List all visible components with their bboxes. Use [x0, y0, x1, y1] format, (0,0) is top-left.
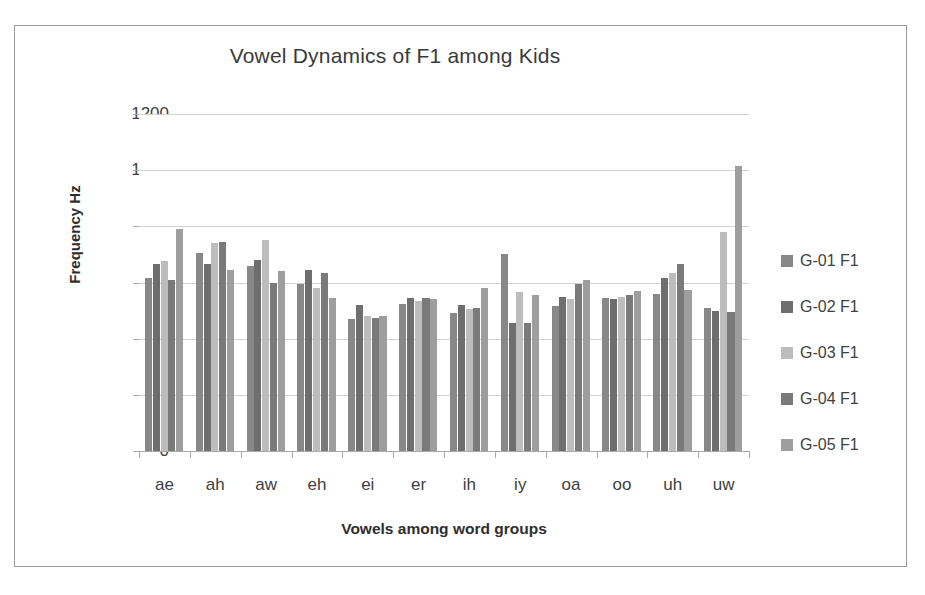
legend-label: G-03 F1 [800, 344, 859, 362]
x-axis-tick-mark [546, 451, 547, 458]
legend-swatch-icon [781, 255, 793, 267]
bar[interactable] [720, 232, 727, 451]
bar[interactable] [196, 253, 203, 451]
x-axis-tick-label: eh [307, 475, 326, 495]
bar[interactable] [552, 306, 559, 451]
bar[interactable] [626, 295, 633, 451]
bar[interactable] [450, 313, 457, 451]
bar[interactable] [204, 264, 211, 451]
bar[interactable] [583, 280, 590, 451]
bar[interactable] [618, 297, 625, 451]
bar[interactable] [466, 309, 473, 451]
bar[interactable] [270, 283, 277, 452]
x-axis-tick-label: aw [255, 475, 277, 495]
x-axis-title: Vowels among word groups [139, 520, 749, 538]
chart-title: Vowel Dynamics of F1 among Kids [15, 44, 775, 68]
bar[interactable] [712, 311, 719, 451]
bar[interactable] [415, 301, 422, 451]
bar-group [704, 114, 743, 451]
x-axis-tick-label: ih [463, 475, 476, 495]
bar-group [501, 114, 540, 451]
bar[interactable] [247, 266, 254, 451]
bar[interactable] [677, 264, 684, 451]
bar[interactable] [168, 280, 175, 451]
bar[interactable] [575, 284, 582, 451]
bar[interactable] [227, 270, 234, 451]
bar[interactable] [473, 308, 480, 451]
x-axis-tick-label: oo [612, 475, 631, 495]
y-axis-title: Frequency Hz [66, 140, 83, 330]
bar[interactable] [379, 316, 386, 451]
legend-label: G-04 F1 [800, 390, 859, 408]
bar-group [602, 114, 641, 451]
bar[interactable] [653, 294, 660, 451]
legend-swatch-icon [781, 393, 793, 405]
bar[interactable] [524, 323, 531, 451]
bar[interactable] [458, 305, 465, 451]
bar[interactable] [704, 308, 711, 451]
x-axis-tick-label: ah [206, 475, 225, 495]
bar[interactable] [669, 273, 676, 451]
bar[interactable] [372, 318, 379, 451]
bar[interactable] [153, 264, 160, 451]
legend-item[interactable]: G-02 F1 [781, 284, 901, 330]
bar[interactable] [399, 304, 406, 451]
bar[interactable] [509, 323, 516, 451]
bar[interactable] [501, 254, 508, 451]
bar[interactable] [559, 297, 566, 451]
bar[interactable] [356, 305, 363, 451]
bar[interactable] [145, 278, 152, 451]
bar-group [552, 114, 591, 451]
x-axis-tick-mark [190, 451, 191, 458]
bar[interactable] [211, 243, 218, 451]
bar[interactable] [727, 312, 734, 451]
bar[interactable] [735, 166, 742, 451]
chart-legend: G-01 F1G-02 F1G-03 F1G-04 F1G-05 F1 [781, 238, 901, 468]
bar[interactable] [297, 284, 304, 451]
bar[interactable] [422, 298, 429, 451]
bar[interactable] [254, 260, 261, 451]
bar[interactable] [348, 319, 355, 451]
legend-label: G-01 F1 [800, 252, 859, 270]
x-axis-tick-label: ae [155, 475, 174, 495]
bar[interactable] [684, 290, 691, 451]
x-axis-tick-mark [444, 451, 445, 458]
bar[interactable] [407, 298, 414, 451]
bar[interactable] [219, 242, 226, 451]
bar[interactable] [313, 288, 320, 451]
bar[interactable] [661, 278, 668, 451]
x-axis-tick-mark [342, 451, 343, 458]
bar-group [196, 114, 235, 451]
bar[interactable] [329, 298, 336, 451]
bar[interactable] [567, 299, 574, 451]
x-axis-tick-mark [393, 451, 394, 458]
bar-group [450, 114, 489, 451]
bar[interactable] [602, 298, 609, 451]
legend-item[interactable]: G-05 F1 [781, 422, 901, 468]
bar[interactable] [321, 273, 328, 451]
bar[interactable] [262, 240, 269, 451]
bar[interactable] [161, 261, 168, 451]
bar[interactable] [532, 295, 539, 451]
chart-figure: Vowel Dynamics of F1 among Kids Frequenc… [14, 25, 907, 567]
bar[interactable] [176, 229, 183, 451]
x-axis-tick-mark [597, 451, 598, 458]
x-axis-tick-label: oa [562, 475, 581, 495]
x-axis-tick-mark [292, 451, 293, 458]
x-axis-tick-mark [495, 451, 496, 458]
bar[interactable] [610, 299, 617, 451]
legend-item[interactable]: G-04 F1 [781, 376, 901, 422]
bar-group [348, 114, 387, 451]
legend-label: G-05 F1 [800, 436, 859, 454]
x-axis-tick-label: uw [713, 475, 735, 495]
legend-item[interactable]: G-03 F1 [781, 330, 901, 376]
bar[interactable] [516, 292, 523, 451]
bar[interactable] [305, 270, 312, 451]
legend-item[interactable]: G-01 F1 [781, 238, 901, 284]
bar[interactable] [430, 299, 437, 451]
bar[interactable] [634, 291, 641, 451]
x-axis-tick-label: er [411, 475, 426, 495]
bar[interactable] [364, 316, 371, 451]
bar[interactable] [481, 288, 488, 451]
bar[interactable] [278, 271, 285, 451]
